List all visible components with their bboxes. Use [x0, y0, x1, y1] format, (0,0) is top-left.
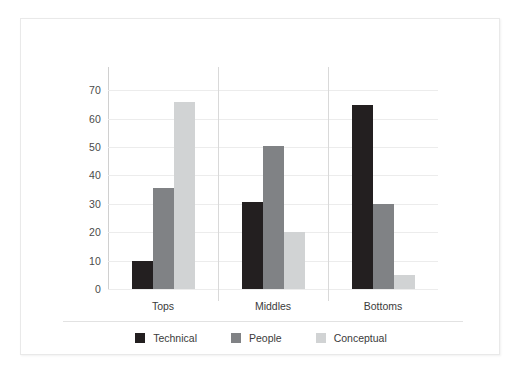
y-tick-label: 30 — [89, 198, 101, 210]
legend-item-technical[interactable]: Technical — [135, 332, 197, 344]
chart-legend: TechnicalPeopleConceptual — [21, 332, 501, 344]
y-tick-label: 60 — [89, 113, 101, 125]
bars — [218, 79, 328, 289]
bars — [108, 79, 218, 289]
bar-technical-bottoms[interactable] — [352, 105, 373, 289]
chart-frame: 010203040506070 TopsMiddlesBottoms Techn… — [20, 18, 500, 355]
bar-conceptual-tops[interactable] — [174, 102, 195, 289]
y-tick-label: 50 — [89, 141, 101, 153]
y-tick-label: 10 — [89, 255, 101, 267]
bar-conceptual-middles[interactable] — [284, 232, 305, 289]
y-tick-label: 0 — [95, 283, 101, 295]
legend-swatch-icon — [316, 333, 326, 343]
bar-technical-tops[interactable] — [132, 261, 153, 289]
category-label-bottoms: Bottoms — [328, 300, 438, 312]
legend-swatch-icon — [135, 333, 145, 343]
legend-label: People — [249, 332, 282, 344]
bar-group-bottoms: Bottoms — [328, 79, 438, 289]
bar-conceptual-bottoms[interactable] — [394, 275, 415, 289]
y-tick-label: 20 — [89, 226, 101, 238]
y-tick-label: 40 — [89, 169, 101, 181]
legend-label: Conceptual — [334, 332, 387, 344]
bar-people-middles[interactable] — [263, 146, 284, 289]
category-label-tops: Tops — [108, 300, 218, 312]
gridline — [108, 289, 438, 290]
bar-people-bottoms[interactable] — [373, 204, 394, 289]
bar-group-tops: Tops — [108, 79, 218, 289]
plot-area: 010203040506070 TopsMiddlesBottoms — [108, 79, 438, 289]
legend-item-people[interactable]: People — [231, 332, 282, 344]
bar-group-middles: Middles — [218, 79, 328, 289]
legend-separator — [63, 321, 463, 322]
y-tick-label: 70 — [89, 84, 101, 96]
legend-label: Technical — [153, 332, 197, 344]
legend-item-conceptual[interactable]: Conceptual — [316, 332, 387, 344]
legend-swatch-icon — [231, 333, 241, 343]
bar-technical-middles[interactable] — [242, 202, 263, 289]
category-label-middles: Middles — [218, 300, 328, 312]
bar-people-tops[interactable] — [153, 188, 174, 289]
bars — [328, 79, 438, 289]
